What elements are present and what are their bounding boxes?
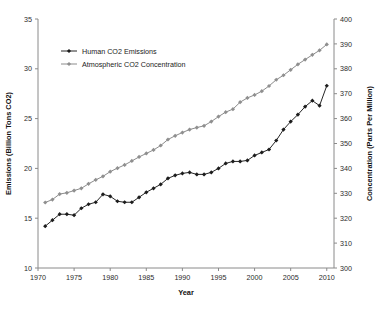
data-point-marker bbox=[173, 134, 177, 138]
legend-label: Human CO2 Emissions bbox=[82, 47, 157, 56]
series-layer bbox=[43, 42, 329, 228]
legend-marker-icon bbox=[67, 62, 71, 66]
left-tick-label: 20 bbox=[24, 164, 32, 173]
right-tick-label: 400 bbox=[340, 15, 352, 24]
data-point-marker bbox=[195, 172, 199, 176]
co2-dual-axis-chart: 101520253035 300310320330340350360370380… bbox=[0, 0, 380, 311]
data-point-marker bbox=[231, 159, 235, 163]
data-point-marker bbox=[137, 155, 141, 159]
left-tick-label: 30 bbox=[24, 64, 32, 73]
series-emissions bbox=[43, 84, 329, 229]
legend-item: Atmospheric CO2 Concentration bbox=[61, 60, 185, 69]
y-axis-title: Emissions (Billion Tons CO2) bbox=[4, 91, 13, 194]
data-point-marker bbox=[260, 150, 264, 154]
data-point-marker bbox=[65, 191, 69, 195]
data-point-marker bbox=[209, 170, 213, 174]
data-point-marker bbox=[43, 200, 47, 204]
chart-canvas: 101520253035 300310320330340350360370380… bbox=[0, 0, 380, 311]
x-tick-label: 2010 bbox=[319, 273, 335, 282]
right-tick-label: 380 bbox=[340, 64, 352, 73]
data-point-marker bbox=[123, 200, 127, 204]
data-point-marker bbox=[195, 125, 199, 129]
y2-axis-title: Concentration (Parts Per Million) bbox=[365, 85, 374, 201]
data-point-marker bbox=[123, 163, 127, 167]
right-axis-ticks: 300310320330340350360370380390400 bbox=[334, 15, 352, 273]
data-point-marker bbox=[188, 170, 192, 174]
right-tick-label: 300 bbox=[340, 264, 352, 273]
x-tick-label: 2000 bbox=[247, 273, 263, 282]
left-tick-label: 10 bbox=[24, 264, 32, 273]
data-point-marker bbox=[130, 159, 134, 163]
left-tick-label: 25 bbox=[24, 114, 32, 123]
legend-marker-icon bbox=[67, 49, 71, 53]
left-tick-label: 35 bbox=[24, 15, 32, 24]
data-point-marker bbox=[115, 166, 119, 170]
right-tick-label: 310 bbox=[340, 239, 352, 248]
data-point-marker bbox=[188, 127, 192, 131]
bottom-axis-ticks: 197019751980198519901995200020052010 bbox=[30, 268, 335, 282]
data-point-marker bbox=[86, 202, 90, 206]
plot-frame bbox=[38, 19, 334, 268]
data-point-marker bbox=[65, 212, 69, 216]
right-tick-label: 390 bbox=[340, 40, 352, 49]
legend-item: Human CO2 Emissions bbox=[61, 47, 157, 56]
data-point-marker bbox=[252, 93, 256, 97]
data-point-marker bbox=[144, 151, 148, 155]
data-point-marker bbox=[202, 172, 206, 176]
data-point-marker bbox=[173, 173, 177, 177]
data-point-marker bbox=[238, 159, 242, 163]
right-tick-label: 320 bbox=[340, 214, 352, 223]
x-tick-label: 1970 bbox=[30, 273, 46, 282]
right-tick-label: 340 bbox=[340, 164, 352, 173]
x-tick-label: 1995 bbox=[210, 273, 226, 282]
left-tick-label: 15 bbox=[24, 214, 32, 223]
left-axis-ticks: 101520253035 bbox=[24, 15, 38, 273]
data-point-marker bbox=[325, 84, 329, 88]
x-tick-label: 2005 bbox=[283, 273, 299, 282]
data-point-marker bbox=[245, 96, 249, 100]
x-tick-label: 1975 bbox=[66, 273, 82, 282]
right-tick-label: 330 bbox=[340, 189, 352, 198]
x-tick-label: 1980 bbox=[102, 273, 118, 282]
data-point-marker bbox=[94, 178, 98, 182]
legend-label: Atmospheric CO2 Concentration bbox=[82, 60, 185, 69]
right-tick-label: 360 bbox=[340, 114, 352, 123]
data-point-marker bbox=[72, 188, 76, 192]
right-tick-label: 350 bbox=[340, 139, 352, 148]
data-point-marker bbox=[180, 130, 184, 134]
x-tick-label: 1990 bbox=[174, 273, 190, 282]
x-axis-title: Year bbox=[178, 288, 194, 297]
data-point-marker bbox=[151, 186, 155, 190]
x-tick-label: 1985 bbox=[138, 273, 154, 282]
data-point-marker bbox=[202, 124, 206, 128]
right-tick-label: 370 bbox=[340, 89, 352, 98]
data-point-marker bbox=[180, 171, 184, 175]
chart-legend: Human CO2 EmissionsAtmospheric CO2 Conce… bbox=[61, 47, 185, 69]
